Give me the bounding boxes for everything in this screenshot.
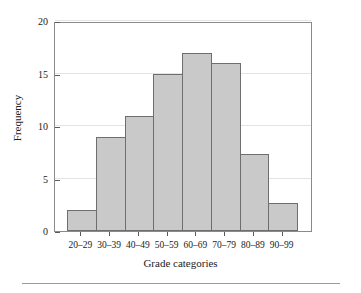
bar-50–59: [153, 74, 183, 232]
bar-20–29: [67, 210, 97, 231]
x-tick-label-90–99: 90–99: [260, 240, 304, 250]
x-tick-mark: [224, 232, 225, 236]
bar-30–39: [96, 137, 126, 232]
histogram-figure: 05101520 20–2930–3940–4950–5960–6970–798…: [0, 0, 361, 293]
x-tick-mark: [282, 232, 283, 236]
footer-rule: [22, 283, 340, 284]
x-tick-mark: [138, 232, 139, 236]
plot-area: [54, 22, 312, 232]
bar-40–49: [125, 116, 155, 232]
x-tick-mark: [253, 232, 254, 236]
x-tick-mark: [167, 232, 168, 236]
y-tick-mark: [55, 22, 60, 23]
y-tick-label: 15: [24, 70, 48, 80]
y-tick-label: 0: [24, 227, 48, 237]
x-axis-label: Grade categories: [0, 257, 361, 269]
x-tick-mark: [80, 232, 81, 236]
x-tick-mark: [109, 232, 110, 236]
x-tick-mark: [195, 232, 196, 236]
bar-90–99: [268, 203, 298, 231]
y-tick-label: 20: [24, 17, 48, 27]
bar-series: [55, 23, 311, 231]
y-tick-label: 10: [24, 122, 48, 132]
gridline: [55, 20, 311, 21]
y-tick-label: 5: [24, 175, 48, 185]
bar-80–89: [240, 154, 270, 231]
y-tick-mark: [55, 127, 60, 128]
y-axis-label: Frequency: [11, 63, 23, 173]
y-tick-mark: [55, 232, 60, 233]
bar-60–69: [182, 53, 212, 232]
y-tick-mark: [55, 180, 60, 181]
bar-70–79: [211, 63, 241, 231]
y-tick-mark: [55, 75, 60, 76]
